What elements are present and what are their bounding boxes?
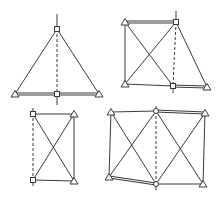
truss-member: [57, 29, 99, 94]
double-panel-truss-figure: [105, 106, 209, 190]
circle-joint-icon: [154, 109, 159, 114]
trapezoid-truss-figure: [121, 11, 211, 93]
truss-member: [156, 113, 205, 184]
truss-diagram-canvas: [0, 0, 219, 203]
truss-member: [203, 113, 205, 184]
truss-member: [111, 111, 156, 112]
truss-member: [176, 22, 207, 87]
square-joint-icon: [55, 27, 60, 32]
truss-member-dashed: [173, 22, 176, 86]
circle-joint-icon: [154, 182, 159, 187]
truss-member: [111, 112, 156, 184]
square-joint-icon: [31, 112, 36, 117]
truss-member: [15, 29, 57, 94]
square-joint-icon: [171, 84, 176, 89]
truss-member: [109, 112, 111, 177]
square-joint-icon: [31, 178, 36, 183]
truss-member: [33, 180, 74, 181]
square-joint-icon: [174, 20, 179, 25]
truss-member: [125, 84, 173, 86]
rectangle-truss-figure: [31, 108, 79, 188]
square-joint-icon: [55, 92, 60, 97]
truss-member: [125, 22, 176, 84]
triangle-truss-figure: [11, 14, 103, 105]
truss-member: [125, 22, 173, 86]
truss-member-double-inner: [109, 177, 156, 184]
